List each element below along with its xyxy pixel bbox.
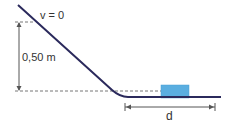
distance-label: d xyxy=(166,110,173,122)
velocity-label: v = 0 xyxy=(40,10,64,21)
height-arrow-up-icon xyxy=(17,22,22,27)
incline-diagram: v = 0 0,50 m d xyxy=(0,0,233,127)
diagram-canvas xyxy=(0,0,233,127)
distance-arrow-left-icon xyxy=(126,105,131,110)
height-label: 0,50 m xyxy=(22,52,56,63)
height-arrow-down-icon xyxy=(17,86,22,91)
distance-arrow-right-icon xyxy=(209,105,214,110)
